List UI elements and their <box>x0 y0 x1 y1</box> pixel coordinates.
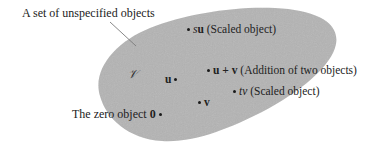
point-u: u <box>165 73 180 86</box>
point-v: v <box>195 96 210 109</box>
vector-u: u <box>197 23 203 35</box>
point-dot-icon <box>187 28 190 31</box>
point-dot-icon <box>198 101 201 104</box>
sum-description: (Addition of two objects) <box>240 64 357 76</box>
set-caption: A set of unspecified objects <box>22 7 155 20</box>
point-dot-icon <box>159 113 162 116</box>
point-su: su (Scaled object) <box>184 23 276 36</box>
point-dot-icon <box>233 90 236 93</box>
point-dot-icon <box>174 78 177 81</box>
set-symbol: 𝒱 <box>128 68 138 81</box>
su-description: (Scaled object) <box>207 23 276 35</box>
point-zero: The zero object 0 <box>72 108 165 121</box>
zero-vector-label: 0 <box>150 107 156 121</box>
point-dot-icon <box>207 69 210 72</box>
tv-description: (Scaled object) <box>250 85 319 97</box>
zero-caption: The zero object <box>72 107 147 121</box>
point-u-plus-v: u + v (Addition of two objects) <box>204 64 357 77</box>
sum-expression: u + v <box>213 64 237 76</box>
point-tv: tv (Scaled object) <box>230 85 319 98</box>
vector-v: v <box>242 85 247 97</box>
vector-space-diagram: A set of unspecified objects 𝒱 su (Scale… <box>0 0 388 146</box>
pointer-arrow <box>110 22 136 46</box>
vector-u-label: u <box>165 73 171 85</box>
vector-v-label: v <box>204 96 210 108</box>
